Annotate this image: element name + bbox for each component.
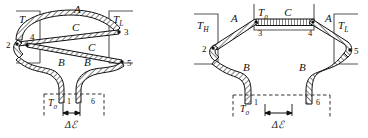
right-node-5-label: 5 <box>354 46 359 56</box>
left-node-3-label: 3 <box>124 27 129 37</box>
left-label-B-right: B <box>84 56 91 68</box>
right-node-3-dot <box>254 20 257 23</box>
left-label-C-upper: C <box>72 21 80 33</box>
right-label-B-right: B <box>299 61 306 73</box>
left-label-A: A <box>73 3 81 15</box>
left-node-2-dot <box>15 42 18 45</box>
right-delta-emf-label: Δℰ <box>271 119 285 130</box>
left-node-1-label: 1 <box>67 97 71 106</box>
left-node-6-label: 6 <box>91 97 95 106</box>
right-node-4-dot <box>311 20 314 23</box>
left-node-4-label: 4 <box>30 32 35 42</box>
right-node-2-dot <box>211 46 214 49</box>
right-conductor-C <box>256 19 314 26</box>
right-node-6-label: 6 <box>316 98 320 107</box>
left-node-5-dot <box>120 60 123 63</box>
right-label-A-left: A <box>230 12 238 24</box>
thermoelectric-circuit-figure: TH TL 2 3 4 5 1 6 A C C B <box>0 0 368 138</box>
left-node-2-label: 2 <box>6 40 11 50</box>
right-node-1-label: 1 <box>254 98 258 107</box>
left-node-3-dot <box>117 30 120 33</box>
right-label-B-left: B <box>243 61 250 73</box>
left-node-4-dot <box>25 43 28 46</box>
diagram-canvas: TH TL 2 3 4 5 1 6 A C C B <box>0 0 368 138</box>
left-delta-emf-label: Δℰ <box>64 119 78 130</box>
left-node-5-label: 5 <box>127 58 132 68</box>
left-label-B-left: B <box>58 56 65 68</box>
right-node-2-label: 2 <box>202 44 207 54</box>
right-label-A-right: A <box>324 12 332 24</box>
right-label-C: C <box>284 6 292 18</box>
right-node-5-dot <box>348 48 351 51</box>
left-label-C-lower: C <box>88 41 96 53</box>
right-node-3-label: 3 <box>258 28 262 38</box>
